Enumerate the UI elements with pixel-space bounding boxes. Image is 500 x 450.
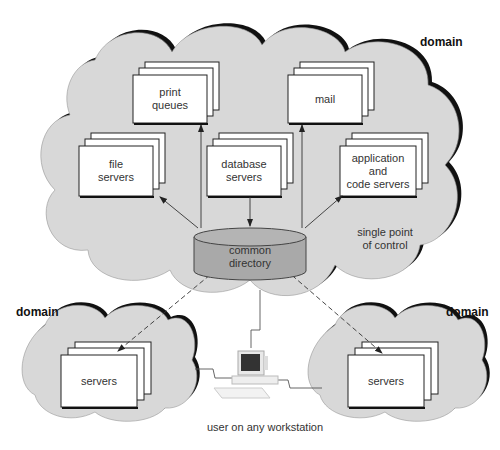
database-servers-card: databaseservers: [207, 146, 281, 196]
app-servers-card: applicationandcode servers: [340, 146, 416, 196]
workstation-label: user on any workstation: [180, 421, 350, 434]
print-queues-card: printqueues: [133, 75, 207, 123]
right-servers-card: servers: [348, 355, 424, 407]
file-servers-card: fileservers: [79, 146, 153, 196]
single-point-of-control-annotation: single point of control: [345, 226, 425, 252]
right-domain-label: domain: [446, 306, 489, 319]
main-domain-label: domain: [420, 36, 463, 49]
mail-card: mail: [288, 75, 362, 123]
workstation-icon: [214, 351, 278, 398]
common-directory-label: commondirectory: [194, 242, 306, 272]
left-servers-card: servers: [61, 355, 137, 407]
left-domain-label: domain: [16, 306, 59, 319]
